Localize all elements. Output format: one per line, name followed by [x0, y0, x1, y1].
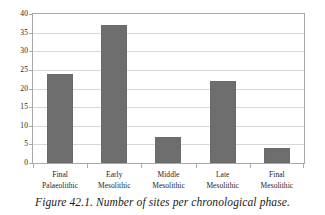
- x-category-label: LateMesolithic: [196, 169, 250, 191]
- x-axis-labels: FinalPalaeolithicEarlyMesolithicMiddleMe…: [33, 169, 304, 195]
- x-tick-mark: [196, 164, 197, 168]
- x-tick-mark: [303, 164, 304, 168]
- x-category-label-line: Late: [196, 169, 250, 180]
- y-tick-label: 25: [20, 66, 28, 74]
- bar[interactable]: [210, 81, 236, 163]
- bar-slot: [196, 14, 250, 163]
- y-tick-label: 30: [20, 48, 28, 56]
- x-tick-mark: [87, 164, 88, 168]
- x-category-label: EarlyMesolithic: [87, 169, 141, 191]
- x-category-label-line: Mesolithic: [250, 180, 304, 191]
- figure-container: 0510152025303540 FinalPalaeolithicEarlyM…: [0, 0, 325, 215]
- bar[interactable]: [47, 74, 73, 163]
- x-category-label-line: Mesolithic: [196, 180, 250, 191]
- x-category-label-line: Final: [33, 169, 87, 180]
- x-category-label-line: Final: [250, 169, 304, 180]
- bar-slot: [141, 14, 195, 163]
- y-tick-label: 0: [24, 159, 28, 167]
- bar[interactable]: [155, 137, 181, 163]
- bar[interactable]: [101, 25, 127, 163]
- x-tick-mark: [250, 164, 251, 168]
- y-tick-label: 10: [20, 122, 28, 130]
- x-category-label: FinalMesolithic: [250, 169, 304, 191]
- bar-slot: [33, 14, 87, 163]
- y-tick-label: 40: [20, 10, 28, 18]
- x-axis-ticks: [33, 164, 304, 168]
- y-tick-label: 35: [20, 29, 28, 37]
- x-tick-mark: [141, 164, 142, 168]
- y-tick-label: 15: [20, 103, 28, 111]
- y-axis: 0510152025303540: [0, 13, 28, 164]
- x-category-label: FinalPalaeolithic: [33, 169, 87, 191]
- bar-slot: [250, 14, 304, 163]
- y-tick-label: 20: [20, 85, 28, 93]
- x-tick-mark: [33, 164, 34, 168]
- x-category-label-line: Palaeolithic: [33, 180, 87, 191]
- bar-slot: [87, 14, 141, 163]
- figure-caption: Figure 42.1. Number of sites per chronol…: [0, 196, 325, 208]
- y-tick-label: 5: [24, 141, 28, 149]
- x-category-label-line: Early: [87, 169, 141, 180]
- bar[interactable]: [264, 148, 290, 163]
- x-category-label-line: Mesolithic: [87, 180, 141, 191]
- x-category-label-line: Mesolithic: [141, 180, 195, 191]
- bar-series: [33, 14, 304, 163]
- x-category-label: MiddleMesolithic: [141, 169, 195, 191]
- x-category-label-line: Middle: [141, 169, 195, 180]
